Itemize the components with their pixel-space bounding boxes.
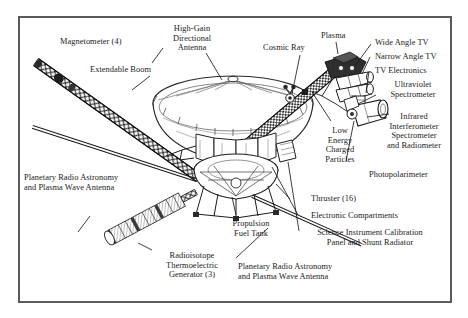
calibration-panel [276, 140, 296, 162]
rtg-assembly [102, 185, 199, 246]
label-photopolarimeter: Photopolarimeter [369, 170, 428, 180]
label-narrow-angle-tv: Narrow Angle TV [375, 52, 437, 62]
label-cosmic-ray: Cosmic Ray [263, 43, 305, 53]
label-ultraviolet-spectrometer: Ultraviolet Spectrometer [371, 80, 455, 99]
label-thruster: Thruster (16) [311, 194, 356, 204]
label-low-energy-charged-particles: Low Energy Charged Particles [318, 126, 362, 164]
photopolarimeter-body [347, 109, 357, 119]
label-pra-pws-bottom: Planetary Radio Astronomy and Plasma Wav… [238, 262, 332, 281]
label-high-gain-antenna: High-Gain Directional Antenna [162, 24, 222, 53]
label-electronic-compartments: Electronic Compartments [311, 211, 398, 221]
label-tv-electronics: TV Electronics [375, 66, 426, 76]
label-extendable-boom: Extendable Boom [90, 65, 151, 75]
label-science-calibration-panel: Science Instrument Calibration Panel and… [300, 228, 440, 247]
label-pra-pws-left: Planetary Radio Astronomy and Plasma Wav… [24, 173, 118, 192]
label-propulsion-fuel-tank: Propulsion Fuel Tank [222, 219, 280, 238]
label-plasma: Plasma [321, 31, 346, 41]
label-magnetometer: Magnetometer (4) [60, 37, 122, 47]
label-wide-angle-tv: Wide Angle TV [375, 38, 429, 48]
spacecraft-illustration [0, 0, 468, 318]
label-infrared-instrument: Infrared Interferometer Spectrometer and… [369, 112, 459, 150]
diagram-stage: Magnetometer (4) Extendable Boom High-Ga… [0, 0, 468, 318]
label-rtg: Radioisotope Thermoelectric Generator (3… [154, 251, 230, 280]
propulsion-module [194, 154, 278, 199]
